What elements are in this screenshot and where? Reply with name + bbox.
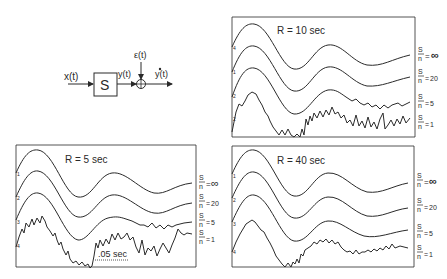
- trace-numbers: 4 1 2 2: [233, 45, 236, 122]
- figure: x(t) S y(t) ε(t) y(t) R = 10 sec 4 1 2 2: [0, 0, 447, 279]
- svg-text:S: S: [418, 114, 423, 121]
- svg-text:=: =: [425, 100, 429, 107]
- trace-sn-1: [232, 92, 410, 137]
- input-label: x(t): [64, 71, 78, 82]
- sn-label-1: S n = 1: [417, 244, 433, 260]
- sn-label-1: S n = 1: [418, 114, 434, 130]
- svg-text:=: =: [425, 75, 429, 82]
- svg-text:2: 2: [233, 93, 236, 99]
- svg-text:n: n: [418, 77, 422, 84]
- svg-text:S: S: [418, 46, 423, 53]
- svg-text:S: S: [199, 193, 204, 200]
- trace-group: [232, 150, 408, 267]
- svg-text:1: 1: [233, 69, 236, 75]
- sn-label-inf: S n = ∞: [418, 46, 439, 62]
- scale-bar-label: .05 sec: [98, 249, 128, 259]
- trace-sn-1: [232, 220, 408, 267]
- svg-text:20: 20: [430, 75, 438, 82]
- svg-text:n: n: [199, 238, 203, 245]
- sn-label-20: S n = 20: [418, 68, 438, 84]
- svg-text:5: 5: [211, 219, 215, 226]
- svg-text:S: S: [199, 174, 204, 181]
- measured-star-mark: [159, 68, 161, 70]
- panel-title: R = 40 sec: [277, 155, 325, 166]
- svg-text:=: =: [425, 121, 429, 128]
- sn-label-5: S n = 5: [418, 93, 434, 109]
- svg-text:1: 1: [211, 236, 215, 243]
- measured-output-label: y(t): [155, 69, 168, 79]
- svg-text:S: S: [417, 244, 422, 251]
- svg-text:n: n: [418, 102, 422, 109]
- svg-text:5: 5: [430, 100, 434, 107]
- svg-text:n: n: [417, 253, 421, 260]
- svg-text:S: S: [417, 172, 422, 179]
- svg-text:20: 20: [211, 200, 219, 207]
- trace-sn-5: [232, 68, 410, 114]
- sn-label-5: S n = 5: [199, 212, 215, 228]
- sn-label-5: S n = 5: [417, 223, 433, 239]
- svg-text:n: n: [199, 183, 203, 190]
- svg-text:n: n: [199, 221, 203, 228]
- panel-r5: R = 5 sec 1 2 3 4 .05 sec S n = ∞: [16, 145, 219, 268]
- system-label: S: [100, 77, 109, 93]
- sn-label-20: S n = 20: [199, 193, 219, 209]
- svg-text:4: 4: [233, 249, 236, 255]
- svg-text:4: 4: [17, 243, 20, 249]
- svg-text:=: =: [424, 230, 428, 237]
- svg-text:1: 1: [233, 173, 236, 179]
- svg-text:S: S: [199, 212, 204, 219]
- svg-text:S: S: [199, 229, 204, 236]
- svg-text:S: S: [418, 93, 423, 100]
- panel-title: R = 5 sec: [65, 154, 108, 165]
- scale-bar: .05 sec: [95, 249, 128, 260]
- svg-text:5: 5: [429, 230, 433, 237]
- svg-text:=: =: [206, 236, 210, 243]
- noise-label: ε(t): [134, 50, 147, 60]
- panel-title: R = 10 sec: [277, 25, 325, 36]
- block-diagram: x(t) S y(t) ε(t) y(t): [64, 50, 172, 96]
- svg-text:2: 2: [233, 116, 236, 122]
- svg-text:2: 2: [233, 197, 236, 203]
- trace-sn-20: [232, 46, 410, 91]
- sn-labels: S n = ∞ S n = 20 S n = 5 S: [199, 174, 219, 245]
- output-label: y(t): [118, 69, 131, 79]
- svg-text:∞: ∞: [429, 175, 437, 187]
- trace-group: [232, 24, 410, 137]
- sn-labels: S n = ∞ S n = 20 S n = 5 S: [418, 46, 439, 130]
- sn-labels: S n = ∞ S n = 20 S n = 5 S: [417, 172, 437, 260]
- svg-text:4: 4: [233, 45, 236, 51]
- svg-text:n: n: [417, 232, 421, 239]
- svg-text:=: =: [424, 204, 428, 211]
- svg-text:3: 3: [233, 221, 236, 227]
- svg-text:S: S: [417, 197, 422, 204]
- svg-text:2: 2: [17, 195, 20, 201]
- svg-text:n: n: [417, 181, 421, 188]
- svg-text:1: 1: [430, 121, 434, 128]
- svg-text:n: n: [418, 55, 422, 62]
- trace-sn-20: [232, 172, 408, 218]
- svg-text:=: =: [424, 251, 428, 258]
- svg-text:3: 3: [17, 219, 20, 225]
- sn-label-20: S n = 20: [417, 197, 437, 213]
- svg-text:n: n: [199, 202, 203, 209]
- sn-label-1: S n = 1: [199, 229, 215, 245]
- svg-text:n: n: [418, 123, 422, 130]
- svg-text:20: 20: [429, 204, 437, 211]
- panel-r40: R = 40 sec 1 2 3 4 S n = ∞ S n: [232, 146, 437, 267]
- svg-text:∞: ∞: [211, 177, 219, 189]
- svg-text:∞: ∞: [431, 49, 439, 61]
- sn-label-inf: S n = ∞: [199, 174, 219, 190]
- svg-text:=: =: [206, 219, 210, 226]
- svg-text:n: n: [417, 206, 421, 213]
- trace-sn-5: [232, 195, 408, 241]
- sn-label-inf: S n = ∞: [417, 172, 437, 188]
- svg-text:=: =: [425, 52, 430, 61]
- svg-text:=: =: [206, 200, 210, 207]
- svg-text:1: 1: [17, 171, 20, 177]
- svg-text:S: S: [418, 68, 423, 75]
- svg-text:1: 1: [429, 251, 433, 258]
- svg-text:S: S: [417, 223, 422, 230]
- panel-r10: R = 10 sec 4 1 2 2 S n = ∞ S n: [232, 17, 439, 137]
